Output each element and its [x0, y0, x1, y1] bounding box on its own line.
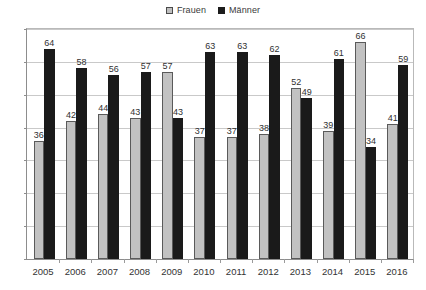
bar-value-label: 63	[200, 41, 221, 51]
chart-legend: FrauenMänner	[0, 2, 426, 18]
x-tick-label: 2013	[290, 266, 311, 277]
x-tick-label: 2009	[161, 266, 182, 277]
bar-value-label: 49	[296, 87, 317, 97]
x-tick-label: 2012	[258, 266, 279, 277]
year-group: 4357	[125, 29, 157, 259]
x-tick-label: 2014	[322, 266, 343, 277]
x-tick-label: 2007	[97, 266, 118, 277]
bar-frauen[interactable]	[291, 88, 302, 259]
bar-value-label: 52	[286, 77, 307, 87]
x-tick-mark	[381, 259, 382, 263]
bar-frauen[interactable]	[66, 121, 77, 259]
bar-value-label: 56	[103, 64, 124, 74]
frauen-swatch-icon	[166, 7, 173, 14]
legend-label: Frauen	[177, 5, 206, 15]
legend-entry[interactable]: Frauen	[166, 5, 206, 15]
year-group: 5743	[157, 29, 189, 259]
y-tick-mark	[24, 128, 27, 129]
bar-frauen[interactable]	[194, 137, 205, 259]
year-group: 3763	[189, 29, 221, 259]
bar-frauen[interactable]	[162, 72, 173, 259]
x-tick-mark	[349, 259, 350, 263]
bar-maenner[interactable]	[141, 72, 152, 259]
bar-value-label: 58	[71, 57, 92, 67]
legend-label: Männer	[229, 5, 260, 15]
bar-value-label: 57	[157, 61, 178, 71]
maenner-swatch-icon	[218, 7, 225, 14]
x-tick-mark	[59, 259, 60, 263]
x-tick-mark	[317, 259, 318, 263]
bar-value-label: 43	[168, 107, 189, 117]
y-tick-mark	[24, 160, 27, 161]
bar-frauen[interactable]	[259, 134, 270, 259]
x-tick-label: 2006	[65, 266, 86, 277]
bar-value-label: 57	[136, 61, 157, 71]
x-tick-mark	[188, 259, 189, 263]
x-tick-label: 2011	[226, 266, 246, 277]
x-tick-label: 2016	[386, 266, 407, 277]
bar-maenner[interactable]	[301, 98, 312, 259]
legend-entry[interactable]: Männer	[218, 5, 260, 15]
bar-maenner[interactable]	[173, 118, 184, 259]
year-group: 5249	[285, 29, 317, 259]
bar-maenner[interactable]	[76, 68, 87, 259]
bar-frauen[interactable]	[387, 124, 398, 259]
year-group: 3763	[221, 29, 253, 259]
year-group: 4456	[92, 29, 124, 259]
x-tick-mark	[220, 259, 221, 263]
plot-area: 3664425844564357574337633763386252493961…	[26, 28, 414, 259]
y-tick-mark	[24, 193, 27, 194]
y-tick-mark	[24, 62, 27, 63]
x-tick-mark	[124, 259, 125, 263]
bar-chart: FrauenMänner 366442584456435757433763376…	[0, 0, 426, 290]
bar-frauen[interactable]	[227, 137, 238, 259]
year-group: 3961	[318, 29, 350, 259]
bar-value-label: 62	[264, 44, 285, 54]
bar-maenner[interactable]	[398, 65, 409, 259]
x-tick-label: 2008	[129, 266, 150, 277]
x-tick-mark	[284, 259, 285, 263]
y-tick-mark	[24, 259, 27, 260]
x-tick-mark	[252, 259, 253, 263]
year-group: 6634	[350, 29, 382, 259]
bar-maenner[interactable]	[44, 49, 55, 259]
year-group: 4258	[60, 29, 92, 259]
x-tick-label: 2015	[354, 266, 375, 277]
x-tick-mark	[156, 259, 157, 263]
y-tick-mark	[24, 95, 27, 96]
bar-maenner[interactable]	[366, 147, 377, 259]
year-group: 3862	[253, 29, 285, 259]
year-group: 3664	[28, 29, 60, 259]
bar-maenner[interactable]	[334, 59, 345, 259]
bar-maenner[interactable]	[237, 52, 248, 259]
bar-value-label: 61	[329, 48, 350, 58]
bar-value-label: 63	[232, 41, 253, 51]
bar-frauen[interactable]	[355, 42, 366, 259]
bars-layer: 3664425844564357574337633763386252493961…	[28, 29, 413, 259]
x-tick-mark	[91, 259, 92, 263]
bar-value-label: 59	[393, 54, 414, 64]
bar-value-label: 64	[39, 38, 60, 48]
bar-frauen[interactable]	[98, 114, 109, 259]
x-tick-mark	[413, 259, 414, 263]
bar-value-label: 66	[350, 31, 371, 41]
y-tick-mark	[24, 29, 27, 30]
year-group: 4159	[382, 29, 414, 259]
x-tick-label: 2005	[33, 266, 54, 277]
x-tick-label: 2010	[193, 266, 214, 277]
bar-frauen[interactable]	[323, 131, 334, 259]
bar-maenner[interactable]	[108, 75, 119, 259]
bar-value-label: 34	[361, 136, 382, 146]
bar-frauen[interactable]	[130, 118, 141, 259]
bar-maenner[interactable]	[269, 55, 280, 259]
y-tick-mark	[24, 226, 27, 227]
bar-maenner[interactable]	[205, 52, 216, 259]
bar-frauen[interactable]	[34, 141, 45, 259]
